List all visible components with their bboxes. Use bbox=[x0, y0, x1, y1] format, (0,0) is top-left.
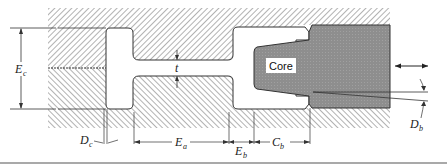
dimension-Eb: E b bbox=[229, 140, 254, 160]
core-motion-arrow bbox=[395, 64, 428, 69]
svg-text:b: b bbox=[280, 142, 284, 151]
svg-text:b: b bbox=[243, 151, 247, 160]
label-Ec: E bbox=[14, 62, 23, 76]
mold-diagram: Core E c t D c bbox=[0, 0, 447, 168]
core-label: Core bbox=[269, 60, 293, 72]
label-Db: D bbox=[409, 117, 419, 131]
label-Eb: E bbox=[234, 144, 243, 158]
dimension-Db: D b bbox=[409, 79, 426, 133]
label-Dc: D bbox=[79, 133, 89, 147]
dimension-Cb: C b bbox=[254, 135, 310, 151]
svg-text:c: c bbox=[23, 69, 27, 78]
svg-text:c: c bbox=[89, 140, 93, 149]
dimension-Ea: E a bbox=[134, 135, 229, 151]
svg-text:a: a bbox=[183, 142, 187, 151]
dimension-Dc: D c bbox=[79, 133, 118, 149]
label-Ea: E bbox=[174, 135, 183, 149]
svg-text:b: b bbox=[419, 124, 423, 133]
